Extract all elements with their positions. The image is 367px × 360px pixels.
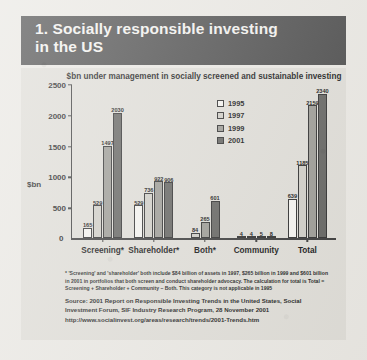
chart-subtitle: $bn under management in socially screene…: [65, 72, 343, 81]
bar: 922: [154, 181, 163, 238]
bar-group: 639118521592340Total: [282, 85, 333, 238]
legend-label: 1997: [228, 111, 244, 120]
legend-item[interactable]: 1997: [217, 111, 244, 120]
legend-swatch: [217, 112, 224, 119]
legend-item[interactable]: 2001: [217, 136, 244, 145]
bar-value-label: 639: [288, 193, 297, 199]
bar: 1185: [298, 165, 307, 238]
bar-value-label: 1497: [101, 140, 113, 146]
bar: 1497: [103, 146, 112, 238]
bar-group: 16552914972030Screening*: [77, 85, 128, 238]
bar-value-label: 265: [200, 216, 209, 222]
bar-value-label: 4: [240, 231, 243, 237]
legend-label: 1995: [228, 99, 244, 108]
x-axis-baseline: [71, 238, 336, 240]
bar-value-label: 529: [93, 200, 102, 206]
x-axis-category-label: Total: [298, 246, 317, 255]
chart-footnote: * 'Screening' and 'shareholder' both inc…: [65, 270, 333, 293]
figure-title-bar: 1. Socially responsible investing in the…: [21, 16, 346, 65]
source-text: Source: 2001 Report on Responsible Inves…: [65, 297, 301, 313]
legend-label: 2001: [228, 136, 244, 145]
legend-swatch: [217, 100, 224, 107]
chart-panel: $bn under management in socially screene…: [21, 68, 346, 340]
bar: 2159: [308, 105, 317, 238]
bar-value-label: 4: [250, 231, 253, 237]
y-axis-title: $bn: [27, 180, 41, 189]
bar: 529: [134, 205, 143, 238]
bar: 165: [83, 228, 92, 238]
bar-value-label: 922: [154, 176, 163, 182]
x-axis-category-label: Both*: [194, 246, 216, 255]
figure-title-line-2: in the US: [35, 38, 334, 56]
chart-source: Source: 2001 Report on Responsible Inves…: [65, 296, 333, 324]
bar-value-label: 5: [260, 231, 263, 237]
bar: 601: [211, 201, 220, 238]
bar: 529: [93, 205, 102, 238]
x-axis-category-label: Shareholder*: [128, 246, 179, 255]
bar: 639: [288, 199, 297, 238]
bar: 2340: [318, 94, 327, 238]
source-url-link[interactable]: http://www.socialinvest.org/areas/resear…: [65, 316, 259, 323]
bar-value-label: 2030: [111, 107, 123, 113]
bar-value-label: 529: [134, 200, 143, 206]
bar: 736: [144, 193, 153, 238]
legend-swatch: [217, 125, 224, 132]
legend-label: 1999: [228, 124, 244, 133]
chart-legend: 1995199719992001: [217, 99, 244, 145]
plot-area: 5001000150020002500 16552914972030Screen…: [71, 85, 336, 239]
bar-value-label: 165: [83, 222, 92, 228]
bar-groups: 16552914972030Screening*529736922906Shar…: [72, 85, 336, 238]
legend-item[interactable]: 1999: [217, 124, 244, 133]
bar-value-label: 906: [164, 177, 173, 183]
bar-value-label: 2340: [316, 88, 328, 94]
figure-title-line-1: 1. Socially responsible investing: [35, 20, 334, 38]
bar-value-label: 1185: [296, 160, 308, 166]
bar: 265: [201, 222, 210, 238]
bar: 2030: [113, 113, 122, 238]
y-axis-tick-zero: 0: [59, 234, 63, 243]
bar-value-label: 84: [192, 227, 198, 233]
bar-value-label: 2159: [306, 100, 318, 106]
bar-group: 529736922906Shareholder*: [128, 85, 179, 238]
legend-item[interactable]: 1995: [217, 99, 244, 108]
bar-value-label: 736: [144, 187, 153, 193]
legend-swatch: [217, 137, 224, 144]
bar-value-label: 601: [210, 195, 219, 201]
x-axis-category-label: Screening*: [81, 246, 124, 255]
bar: 906: [164, 182, 173, 238]
bar-value-label: 8: [270, 231, 273, 237]
x-axis-category-label: Community: [234, 246, 279, 255]
